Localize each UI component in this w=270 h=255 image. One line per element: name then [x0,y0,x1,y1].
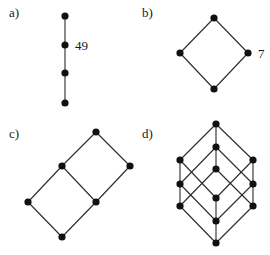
node-B [212,239,219,246]
node-D [212,194,219,201]
node-L1 [176,156,183,163]
node-c_left [24,198,31,205]
edge-c_um-c_left [28,166,62,202]
node-annotation-b: 7 [258,46,265,61]
node-a2 [61,41,68,48]
edge-C-L3 [180,169,216,206]
node-a1 [61,12,68,19]
edge-c_um-c_lm [62,166,96,202]
node-C [212,165,219,172]
edge-L2-E [180,184,216,221]
edge-c_top-c_right [96,132,130,166]
node-b_right [244,49,251,56]
node-E [212,217,219,224]
node-R1 [249,156,256,163]
node-T [212,120,219,127]
panel-label-a: a) [9,5,19,20]
edge-c_lm-c_bottom [62,202,96,237]
node-b_bottom [210,85,217,92]
edge-b_left-b_bottom [180,53,214,89]
node-b_left [176,49,183,56]
edge-L3-B [180,206,216,243]
panel-a: a)49 [9,5,88,107]
node-c_right [126,162,133,169]
panel-c: c) [9,126,134,241]
edge-b_top-b_left [180,18,214,53]
edge-c_right-c_lm [96,166,130,202]
node-annotation-a: 49 [75,38,88,53]
node-b_top [210,14,217,21]
panel-label-d: d) [142,126,153,141]
edge-b_top-b_right [214,18,248,53]
panel-label-b: b) [142,5,153,20]
node-A [212,143,219,150]
node-c_top [92,128,99,135]
node-a4 [61,99,68,106]
node-c_bottom [58,233,65,240]
node-R3 [249,202,256,209]
node-L2 [176,180,183,187]
edge-c_top-c_um [62,132,96,166]
edge-b_right-b_bottom [214,53,248,89]
panel-label-c: c) [9,126,19,141]
panel-b: b)7 [142,5,265,93]
panel-d: d) [142,120,257,246]
node-c_um [58,162,65,169]
edge-C-R3 [216,169,253,206]
node-c_lm [92,198,99,205]
node-R2 [249,180,256,187]
edge-R2-E [216,184,253,221]
edge-T-R1 [216,124,253,160]
lattice-diagrams-figure: a)49 b)7 c) d) [0,0,270,255]
edge-R3-B [216,206,253,243]
edge-T-L1 [180,124,216,160]
edge-c_left-c_bottom [28,202,62,237]
node-a3 [61,69,68,76]
node-L3 [176,202,183,209]
